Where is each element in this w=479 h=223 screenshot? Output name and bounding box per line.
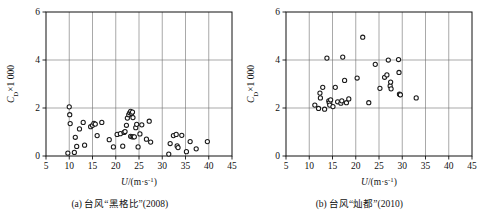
chart-b-plot-area: 510152025303540450246U/(m·s-1)CD×1 000 [246, 7, 477, 188]
data-point [414, 96, 418, 100]
x-tick-label: 15 [88, 161, 98, 171]
x-tick-label: 5 [44, 161, 49, 171]
chart-a-plot-area: 510152025303540450246U/(m·s-1)CD×1 000 [6, 7, 237, 188]
x-tick-label: 25 [374, 161, 384, 171]
x-tick-label: 40 [444, 161, 454, 171]
data-point [180, 133, 184, 137]
x-tick-label: 25 [134, 161, 144, 171]
x-tick-label: 20 [111, 161, 121, 171]
x-axis-title: U/(m·s-1) [361, 176, 397, 189]
data-point [66, 151, 70, 155]
y-tick-label: 6 [35, 7, 40, 17]
x-tick-label: 35 [420, 161, 430, 171]
data-point [121, 144, 125, 148]
chart-b-svg: 510152025303540450246U/(m·s-1)CD×1 000 [240, 0, 479, 196]
x-tick-label: 15 [327, 161, 337, 171]
data-point [377, 86, 381, 90]
data-point [386, 58, 390, 62]
data-point [147, 119, 151, 123]
data-point [342, 78, 346, 82]
data-point [312, 103, 316, 107]
data-point [95, 134, 99, 138]
y-axis-title-group: CD×1 000 [6, 65, 19, 103]
x-tick-label: 30 [397, 161, 407, 171]
y-tick-label: 0 [35, 151, 40, 161]
data-point [168, 141, 172, 145]
data-point [366, 101, 370, 105]
data-point [167, 152, 171, 156]
data-point [149, 140, 153, 144]
y-tick-label: 6 [275, 7, 280, 17]
data-point [373, 62, 377, 66]
data-point [124, 123, 128, 127]
data-point [318, 96, 322, 100]
x-tick-label: 40 [204, 161, 214, 171]
data-point [328, 98, 332, 102]
data-point [355, 76, 359, 80]
data-point [107, 138, 111, 142]
data-point [317, 91, 321, 95]
y-tick-label: 0 [275, 151, 280, 161]
x-tick-label: 35 [181, 161, 191, 171]
data-point [316, 106, 320, 110]
data-point [333, 85, 337, 89]
data-point [93, 122, 97, 126]
data-point [136, 145, 140, 149]
data-point [339, 99, 343, 103]
data-point [75, 144, 79, 148]
data-point [396, 57, 400, 61]
chart-a-svg: 510152025303540450246U/(m·s-1)CD×1 000 [0, 0, 239, 196]
data-point [324, 56, 328, 60]
data-point [111, 145, 115, 149]
data-point [72, 150, 76, 154]
y-axis-title: CD×1 000 [246, 65, 259, 103]
x-tick-label: 10 [304, 161, 314, 171]
data-point [320, 85, 324, 89]
y-tick-label: 2 [275, 103, 280, 113]
data-point [130, 110, 134, 114]
data-point [123, 129, 127, 133]
y-tick-label: 4 [35, 55, 40, 65]
x-axis-title: U/(m·s-1) [121, 176, 157, 189]
data-point [398, 93, 402, 97]
data-point [131, 116, 135, 120]
data-point [388, 87, 392, 91]
data-point [73, 135, 77, 139]
data-point [384, 73, 388, 77]
data-point [140, 123, 144, 127]
y-tick-label: 2 [35, 103, 40, 113]
scatter-figure: 510152025303540450246U/(m·s-1)CD×1 000 (… [0, 0, 479, 223]
x-tick-label: 5 [283, 161, 288, 171]
x-tick-label: 45 [227, 161, 237, 171]
x-tick-label: 10 [65, 161, 75, 171]
data-point [360, 35, 364, 39]
data-point [82, 143, 86, 147]
x-tick-label: 20 [351, 161, 361, 171]
panel-b: 510152025303540450246U/(m·s-1)CD×1 000 (… [240, 0, 479, 223]
data-point [330, 104, 334, 108]
data-point [68, 113, 72, 117]
y-tick-label: 4 [275, 55, 280, 65]
data-point [144, 137, 148, 141]
y-axis-title-group: CD×1 000 [246, 65, 259, 103]
y-axis-title: CD×1 000 [6, 65, 19, 103]
data-point [388, 80, 392, 84]
data-point [205, 140, 209, 144]
panel-a-caption: (a) 台风“黑格比”(2008) [0, 196, 240, 210]
data-point [396, 70, 400, 74]
data-point [81, 120, 85, 124]
data-point [174, 132, 178, 136]
data-point [176, 146, 180, 150]
data-point [340, 55, 344, 59]
data-point [132, 135, 136, 139]
data-point [68, 122, 72, 126]
data-point [322, 107, 326, 111]
data-point [188, 140, 192, 144]
x-tick-label: 45 [467, 161, 477, 171]
panel-b-caption: (b) 台风“灿都”(2010) [240, 196, 479, 210]
data-point [67, 105, 71, 109]
data-point [184, 150, 188, 154]
data-point [100, 120, 104, 124]
data-point [346, 97, 350, 101]
data-point [194, 147, 198, 151]
